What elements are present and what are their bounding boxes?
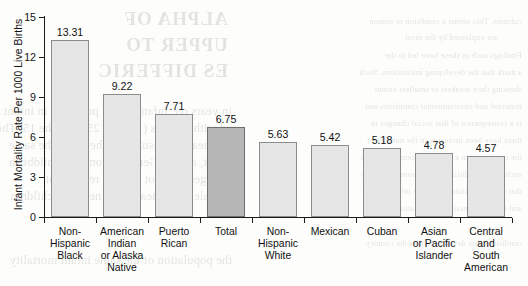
x-axis-line — [44, 217, 512, 218]
bar-value-label: 4.78 — [408, 139, 460, 151]
bar — [51, 40, 89, 217]
bar — [259, 142, 297, 217]
x-axis-category-label: Non-HispanicWhite — [252, 226, 304, 262]
bar-value-label: 5.63 — [252, 128, 304, 140]
x-axis-tick-mark — [512, 218, 513, 223]
y-axis-tick-label: 6 — [14, 131, 36, 143]
x-axis-tick-mark — [408, 218, 409, 223]
x-axis-tick-mark — [96, 218, 97, 223]
bar-value-label: 13.31 — [44, 26, 96, 38]
bar-value-label: 7.71 — [148, 100, 200, 112]
x-axis-tick-mark — [252, 218, 253, 223]
bar — [415, 153, 453, 217]
x-axis-category-label: PuertoRican — [148, 226, 200, 250]
x-axis-category-label: AmericanIndianor AlaskaNative — [96, 226, 148, 274]
x-axis-tick-mark — [356, 218, 357, 223]
x-axis-tick-mark — [200, 218, 201, 223]
infant-mortality-bar-chart: Infant Mortality Rate Per 1000 Live Birt… — [0, 0, 528, 286]
y-axis-tick-label: 9 — [14, 91, 36, 103]
bar — [467, 156, 505, 217]
bar-value-label: 9.22 — [96, 80, 148, 92]
y-axis-line — [44, 16, 45, 218]
x-axis-category-label: Asianor PacificIslander — [408, 226, 460, 262]
bar-value-label: 5.18 — [356, 134, 408, 146]
x-axis-tick-mark — [148, 218, 149, 223]
bar — [103, 94, 141, 217]
x-axis-category-label: Mexican — [304, 226, 356, 238]
x-axis-category-label: Non-HispanicBlack — [44, 226, 96, 262]
y-axis-tick-label: 0 — [14, 211, 36, 223]
bar — [363, 148, 401, 217]
bar-value-label: 6.75 — [200, 113, 252, 125]
y-axis-tick-label: 3 — [14, 171, 36, 183]
x-axis-category-label: Cuban — [356, 226, 408, 238]
x-axis-tick-mark — [304, 218, 305, 223]
bar-value-label: 5.42 — [304, 131, 356, 143]
x-axis-tick-mark — [44, 218, 45, 223]
y-axis-tick-label: 12 — [14, 51, 36, 63]
scanned-chart-page: cultures. This seems a condition or reas… — [0, 0, 528, 286]
y-axis-tick-label: 15 — [14, 11, 36, 23]
x-axis-category-label: CentralandSouthAmerican — [460, 226, 512, 274]
bar — [207, 127, 245, 217]
bar-value-label: 4.57 — [460, 142, 512, 154]
bar — [155, 114, 193, 217]
y-axis-title: Infant Mortality Rate Per 1000 Live Birt… — [13, 13, 24, 217]
x-axis-category-label: Total — [200, 226, 252, 238]
bar — [311, 145, 349, 217]
x-axis-tick-mark — [460, 218, 461, 223]
